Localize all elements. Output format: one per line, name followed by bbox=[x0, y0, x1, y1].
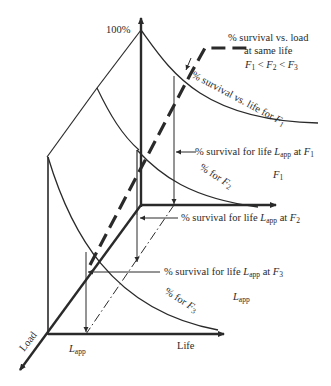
svg-text:at same life: at same life bbox=[244, 45, 293, 56]
lapp-dashdot-line bbox=[86, 205, 174, 334]
load-axis bbox=[20, 205, 141, 370]
label-curve-f2: % for F2 bbox=[197, 161, 235, 191]
label-plane-f1: F1 bbox=[272, 169, 283, 182]
arc-load-f1-f2 bbox=[97, 88, 139, 150]
label-lapp-f2: % survival for life Lapp at F2 bbox=[181, 212, 300, 225]
label-lapp-f1: % survival for life Lapp at F1 bbox=[195, 146, 314, 159]
svg-text:F1 < F2 < F3: F1 < F2 < F3 bbox=[244, 59, 298, 72]
plane-edge-mid bbox=[47, 88, 97, 157]
label-curve-f3: % for F3 bbox=[162, 285, 200, 315]
curve-f2 bbox=[137, 150, 258, 207]
plane-edge-top bbox=[97, 30, 141, 88]
annotation-survival-vs-load: % survival vs. load at same life F1 < F2… bbox=[228, 32, 309, 72]
curve-f1 bbox=[141, 30, 318, 123]
survival-vs-load-arrow bbox=[186, 58, 191, 70]
label-life-axis: Life bbox=[177, 340, 195, 351]
label-lapp-tick: Lapp bbox=[68, 343, 86, 356]
label-lapp-f3: % survival for life Lapp at F3 bbox=[164, 266, 283, 279]
label-plane-lapp: Lapp bbox=[232, 291, 250, 304]
svg-text:% survival vs. load: % survival vs. load bbox=[228, 32, 309, 43]
label-100-percent: 100% bbox=[106, 24, 131, 35]
survival-load-life-diagram: 100% % survival vs. load at same life F1… bbox=[0, 0, 331, 386]
label-curve-f1: % survival vs. life for F1 bbox=[189, 69, 287, 129]
